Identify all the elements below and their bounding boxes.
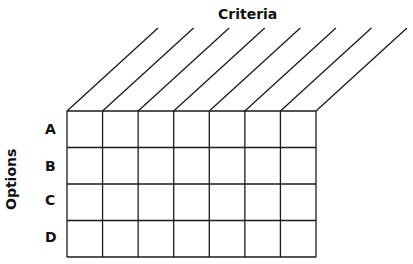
- matrix-grid: [0, 0, 413, 264]
- criteria-diagonal-line: [245, 28, 336, 111]
- criteria-diagonal-line: [103, 28, 194, 111]
- criteria-diagonal-line: [209, 28, 300, 111]
- criteria-diagonal-line: [280, 28, 371, 111]
- criteria-diagonal-line: [174, 28, 265, 111]
- criteria-diagonal-line: [138, 28, 229, 111]
- criteria-diagonal-line: [316, 28, 407, 111]
- criteria-diagonal-line: [67, 28, 158, 111]
